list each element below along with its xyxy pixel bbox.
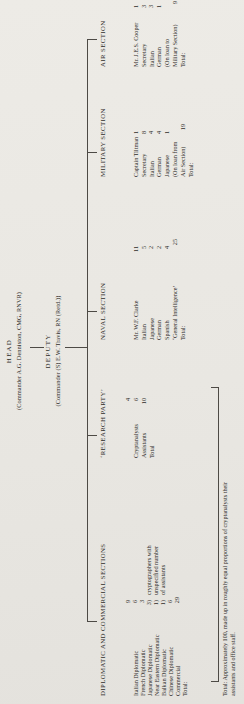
row-value: 1 [163, 131, 171, 177]
org-row: Cryptanalysts4 [124, 424, 132, 458]
footnote-brace-line [218, 387, 219, 682]
row-value: 1 [155, 5, 163, 67]
org-row: Secretary1 [132, 23, 140, 67]
tick-air-line [87, 39, 97, 40]
org-row: French Diplomatic6 [131, 634, 138, 696]
row-note: unspecified number [152, 546, 159, 595]
head-block: HEAD (Commander A.G. Denniston, CMG, RNV… [5, 231, 23, 471]
row-value: 8 [140, 131, 148, 177]
section-rows: Mr. J.E.S. Cooper Secretary1 Italian3 Ge… [124, 23, 179, 67]
org-row: Military Section) [163, 23, 171, 67]
head-deputy-connector-line [30, 347, 44, 348]
row-value: 6 [166, 600, 173, 696]
org-row: Japanese4 [155, 137, 163, 177]
section-rows: Italian Diplomatic9 French Diplomatic6 J… [124, 634, 180, 696]
section-naval: NAVAL SECTION Mr. W.F. Clarke Italian11 … [99, 283, 107, 340]
org-row-total: Total10 [140, 424, 148, 458]
footnote: Total: Approximately 100, made up in rou… [221, 482, 237, 696]
section-heading: NAVAL SECTION [99, 283, 107, 340]
org-tree-bar-line [87, 39, 88, 622]
org-row: Secretary1 [132, 137, 140, 177]
section-diplomatic: DIPLOMATIC AND COMMERCIAL SECTIONS Itali… [99, 543, 107, 696]
deputy-title: DEPUTY [44, 231, 52, 471]
org-chart-page: HEAD (Commander A.G. Denniston, CMG, RNV… [0, 0, 244, 704]
row-value: 1 [132, 131, 140, 177]
row-value: 2 [155, 246, 163, 340]
row-note: cryptographers with [145, 545, 152, 595]
section-rows: Mr. W.F. Clarke Italian11 Japanese5 Germ… [124, 286, 179, 340]
org-row-total: Total:29 [173, 634, 180, 696]
deputy-block: DEPUTY (Commander (S) E.W. Travis, RN (R… [44, 231, 62, 471]
row-label: Total: [179, 326, 186, 340]
footnote-line-2: assistants and office staff. [229, 482, 237, 696]
org-row: Balkan Diplomatic1)unspecified number [152, 634, 159, 696]
org-row: Japanese Diplomatic3 [138, 634, 145, 696]
org-row: Captain Tiltman [124, 137, 132, 177]
row-value: 6 [131, 600, 138, 696]
org-row: German4 [147, 137, 155, 177]
section-air: AIR SECTION Mr. J.E.S. Cooper Secretary1… [99, 20, 107, 67]
org-row-total: Total:19 [179, 137, 187, 177]
row-value: 3 [147, 5, 155, 67]
row-value: 29 [173, 597, 180, 696]
row-value: 1 [132, 5, 140, 67]
row-value: 6 [132, 398, 140, 458]
org-row: German2 [147, 286, 155, 340]
section-heading: AIR SECTION [99, 20, 107, 67]
org-row: Italian11 [132, 286, 140, 340]
org-row: Italian8 [140, 137, 148, 177]
org-row: Italian3 [140, 23, 148, 67]
row-label: Total [148, 445, 155, 458]
org-row: Near Eastern Diplomatic3)cryptographers … [145, 634, 152, 696]
footnote-brace-right-tick [211, 387, 218, 388]
row-value: 3 [138, 600, 145, 696]
section-heading: ‘RESEARCH PARTY’ [99, 389, 107, 458]
org-row: Japanese5 [140, 286, 148, 340]
org-row: German3 [147, 23, 155, 67]
section-military: MILITARY SECTION Captain Tiltman Secreta… [99, 108, 107, 177]
row-value: 4 [163, 246, 171, 340]
org-row: Assistants6 [132, 424, 140, 458]
deputy-name: (Commander (S) E.W. Travis, RN (Retd.)) [54, 231, 62, 471]
row-value: 5 [140, 246, 148, 340]
row-value: 11 [132, 246, 140, 340]
org-chart-canvas: HEAD (Commander A.G. Denniston, CMG, RNV… [0, 0, 244, 704]
org-row-total: Total:9 [171, 23, 179, 67]
head-title: HEAD [5, 231, 13, 471]
section-heading: MILITARY SECTION [99, 108, 107, 177]
org-row: Italian Diplomatic9 [124, 634, 131, 696]
row-value: 19 [179, 124, 187, 177]
row-value: 4 [147, 131, 155, 177]
row-label: Total: [181, 682, 188, 696]
org-row-total: Total:25 [171, 286, 179, 340]
tick-research-line [87, 435, 97, 436]
org-row: Commercial6 [166, 634, 173, 696]
row-value: 3 [140, 5, 148, 67]
org-row: (On loan to1 [155, 23, 163, 67]
row-value: 9 [171, 1, 179, 67]
row-value: 2 [147, 246, 155, 340]
tick-diplomatic-line [87, 621, 97, 622]
row-note: of assistants [159, 565, 166, 595]
row-value: 1) [159, 600, 166, 696]
row-value: 1) [152, 600, 159, 696]
org-row: Air Section) [171, 137, 179, 177]
row-label: Total: [179, 53, 186, 67]
org-row: (On loan from1 [163, 137, 171, 177]
deputy-bar-connector-line [65, 347, 87, 348]
tick-naval-line [87, 311, 97, 312]
section-research: ‘RESEARCH PARTY’ Cryptanalysts4 Assistan… [99, 389, 107, 458]
row-value: 3) [145, 600, 152, 696]
row-value: 25 [171, 239, 179, 340]
org-row: Mr. J.E.S. Cooper [124, 23, 132, 67]
org-row: Chinese Diplomatic1)of assistants [159, 634, 166, 696]
row-value: 4 [155, 131, 163, 177]
section-rows: Cryptanalysts4 Assistants6 Total10 [124, 424, 147, 458]
section-rows: Captain Tiltman Secretary1 Italian8 Germ… [124, 137, 186, 177]
row-value: 10 [140, 398, 148, 458]
tick-military-line [87, 152, 97, 153]
row-value: 4 [124, 398, 132, 458]
row-value: 9 [124, 600, 131, 696]
org-row: Spanish2 [155, 286, 163, 340]
footnote-brace-left-tick [211, 681, 218, 682]
